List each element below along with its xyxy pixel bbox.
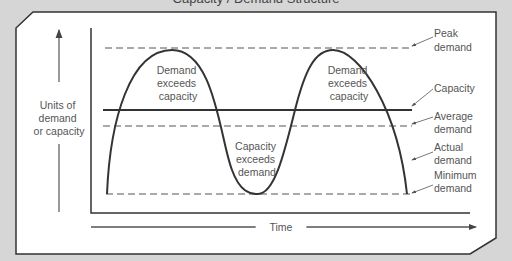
panel-frame xyxy=(16,12,496,254)
callout-average-demand: Average demand xyxy=(434,110,476,135)
region-peak1-label: Demand exceeds capacity xyxy=(157,64,200,102)
region-trough-label: Capacity exceeds demand xyxy=(235,140,279,178)
y-axis-label: Units of demand or capacity xyxy=(34,99,86,137)
x-axis-label: Time xyxy=(270,221,293,233)
region-peak2-label: Demand exceeds capacity xyxy=(328,64,371,102)
callout-capacity: Capacity xyxy=(434,82,476,94)
demand-capacity-diagram: Units of demand or capacity Time Demand … xyxy=(0,0,512,261)
